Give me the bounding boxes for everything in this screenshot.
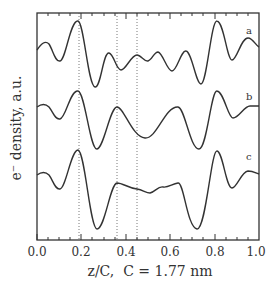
x-tick-label-1.0: 1.0 <box>246 245 265 259</box>
x-axis-label: z/C, C = 1.77 nm <box>88 263 213 279</box>
chart-svg: a b c 0.0 0.2 0.4 0.6 0.8 1.0 z/C, C = 1… <box>0 0 273 284</box>
curve-a <box>37 21 259 87</box>
curve-label-b: b <box>246 91 252 102</box>
x-tick-label-0.8: 0.8 <box>205 245 224 259</box>
curve-c <box>37 150 259 229</box>
plot-frame <box>37 13 259 240</box>
curves <box>37 21 259 229</box>
x-tick-label-0.0: 0.0 <box>27 245 46 259</box>
x-tick-label-0.4: 0.4 <box>116 245 135 259</box>
curve-label-c: c <box>246 151 252 162</box>
curve-b <box>37 91 259 149</box>
x-ticks <box>37 13 248 240</box>
y-axis-label: e⁻ density, a.u. <box>8 76 24 181</box>
x-tick-label-0.2: 0.2 <box>71 245 90 259</box>
curve-label-a: a <box>246 25 252 36</box>
x-tick-label-0.6: 0.6 <box>160 245 179 259</box>
